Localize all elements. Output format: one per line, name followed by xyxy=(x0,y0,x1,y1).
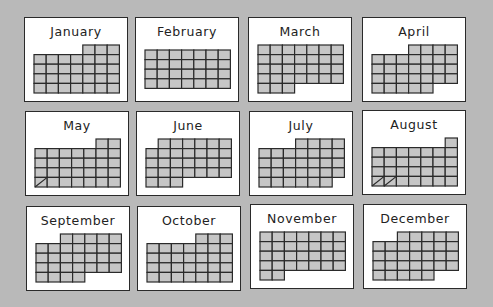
day-cell xyxy=(58,64,70,74)
day-cell xyxy=(409,148,421,158)
day-cell xyxy=(409,157,421,167)
day-cell xyxy=(184,272,196,282)
day-cell xyxy=(220,263,232,273)
day-cell xyxy=(372,74,384,84)
day-cell xyxy=(220,244,232,254)
day-cell xyxy=(396,157,408,167)
day-cell xyxy=(194,59,206,69)
day-cell xyxy=(218,79,230,89)
day-cell xyxy=(46,55,58,65)
day-cell xyxy=(157,50,169,60)
day-cell xyxy=(308,139,320,149)
month-day-grid xyxy=(372,231,459,281)
day-cell xyxy=(169,59,181,69)
day-cell xyxy=(331,55,343,65)
day-cell xyxy=(207,158,219,168)
day-cell xyxy=(72,149,84,159)
day-cell xyxy=(297,242,309,252)
month-title: June xyxy=(137,118,239,133)
day-cell xyxy=(320,149,332,159)
day-cell xyxy=(259,158,271,168)
day-cell xyxy=(107,74,119,84)
day-cell xyxy=(73,263,85,273)
day-cell xyxy=(146,149,158,159)
day-cell xyxy=(409,64,421,74)
day-cell xyxy=(108,149,120,159)
day-cell xyxy=(433,167,445,177)
day-cell xyxy=(372,148,384,158)
month-day-grid xyxy=(33,44,120,94)
day-cell xyxy=(59,177,71,187)
day-cell xyxy=(83,45,95,55)
day-cell xyxy=(47,158,59,168)
day-cell xyxy=(270,83,282,93)
month-card-july: July xyxy=(249,111,353,196)
day-cell xyxy=(332,149,344,159)
day-cell xyxy=(296,158,308,168)
day-cell xyxy=(208,234,220,244)
day-cell xyxy=(321,261,333,271)
day-cell xyxy=(259,177,271,187)
day-cell xyxy=(396,55,408,65)
day-cell xyxy=(446,251,458,261)
day-cell xyxy=(169,79,181,89)
day-cell xyxy=(171,263,183,273)
day-cell xyxy=(296,139,308,149)
day-cell xyxy=(372,55,384,65)
day-cell xyxy=(147,244,159,254)
day-cell xyxy=(96,149,108,159)
day-cell xyxy=(83,74,95,84)
day-cell xyxy=(208,253,220,263)
day-cell xyxy=(108,158,120,168)
day-cell xyxy=(260,232,272,242)
day-cell xyxy=(385,242,397,252)
day-cell xyxy=(397,251,409,261)
day-cell xyxy=(58,74,70,84)
day-cell xyxy=(196,234,208,244)
day-cell xyxy=(421,55,433,65)
day-cell xyxy=(47,149,59,159)
month-title: August xyxy=(363,117,465,132)
day-cell xyxy=(84,149,96,159)
day-cell xyxy=(409,55,421,65)
day-cell xyxy=(220,253,232,263)
day-cell xyxy=(295,55,307,65)
month-card-october: October xyxy=(137,206,241,291)
day-cell xyxy=(194,69,206,79)
day-cell xyxy=(410,270,422,280)
day-cell xyxy=(258,74,270,84)
day-cell xyxy=(58,83,70,93)
day-cell xyxy=(95,83,107,93)
day-cell xyxy=(96,168,108,178)
day-cell xyxy=(219,168,231,178)
day-cell xyxy=(320,177,332,187)
day-cell xyxy=(434,251,446,261)
day-cell xyxy=(84,168,96,178)
day-cell xyxy=(196,253,208,263)
month-title: December xyxy=(364,211,466,226)
day-cell xyxy=(260,261,272,271)
day-cell xyxy=(85,263,97,273)
month-card-december: December xyxy=(363,204,467,289)
day-cell xyxy=(97,253,109,263)
day-cell xyxy=(35,168,47,178)
month-title: January xyxy=(25,24,127,39)
day-cell xyxy=(73,244,85,254)
day-cell xyxy=(184,263,196,273)
day-cell xyxy=(36,263,48,273)
day-cell xyxy=(219,158,231,168)
day-cell xyxy=(397,232,409,242)
day-cell xyxy=(71,64,83,74)
day-cell xyxy=(433,74,445,84)
day-cell xyxy=(72,158,84,168)
day-cell xyxy=(445,74,457,84)
day-cell xyxy=(157,79,169,89)
day-cell xyxy=(372,83,384,93)
day-cell xyxy=(48,263,60,273)
month-day-grid xyxy=(258,138,345,188)
day-cell xyxy=(60,234,72,244)
day-cell xyxy=(182,69,194,79)
day-cell xyxy=(421,157,433,167)
day-cell xyxy=(107,83,119,93)
day-cell xyxy=(219,139,231,149)
